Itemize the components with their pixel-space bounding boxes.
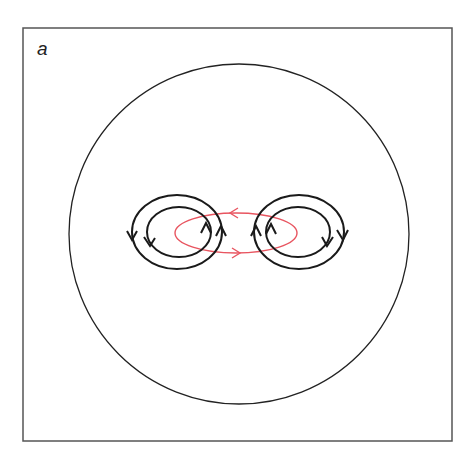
diagram-canvas bbox=[0, 0, 474, 462]
left-vortex-loops bbox=[127, 195, 226, 269]
figure-panel-a: a bbox=[0, 0, 474, 462]
panel-frame bbox=[23, 28, 452, 441]
outer-boundary-circle bbox=[69, 64, 409, 404]
panel-label: a bbox=[37, 39, 48, 59]
right-vortex-loops bbox=[251, 195, 348, 269]
arrow-down-icon bbox=[337, 230, 348, 240]
red-current-loop bbox=[175, 208, 297, 258]
arrow-up-icon bbox=[251, 226, 261, 236]
